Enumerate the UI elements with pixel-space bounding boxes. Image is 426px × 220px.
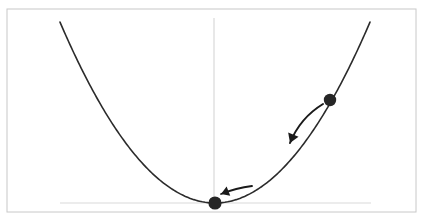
vertex-point	[208, 196, 221, 209]
parabola-diagram	[0, 0, 426, 220]
figure-root	[0, 0, 426, 220]
current-point	[324, 94, 336, 106]
